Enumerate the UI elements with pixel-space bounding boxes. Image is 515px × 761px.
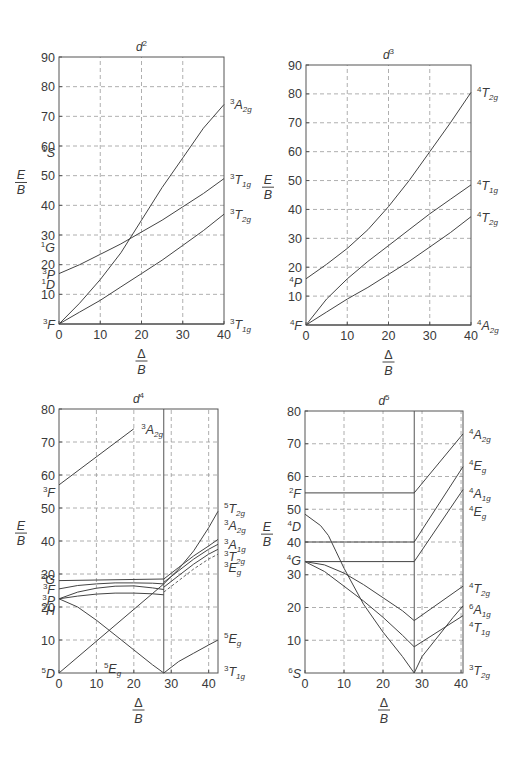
y-tick-label: 40 [41, 199, 55, 213]
term-label-right: 3T1g [230, 172, 252, 189]
x-tick-label: 30 [415, 677, 429, 691]
x-tick-label: 0 [303, 329, 310, 343]
series-line [414, 616, 463, 647]
y-tick-label: 10 [287, 634, 301, 648]
chart-title: d2 [136, 39, 148, 54]
x-axis-label: ΔB [383, 348, 395, 378]
x-tick-label: 10 [337, 677, 351, 691]
x-tick-label: 30 [423, 329, 437, 343]
x-tick-label: 10 [93, 328, 107, 342]
y-tick-label: 60 [41, 469, 55, 483]
y-tick-label: 70 [288, 116, 302, 130]
svg-text:B: B [137, 363, 145, 377]
y-tick-label: 40 [41, 535, 55, 549]
tanabe-sugano-figure: 010203040102030405060708090d2EBΔB1S1G3P1… [0, 0, 515, 761]
term-label-right: 3A2g [230, 97, 252, 114]
x-tick-label: 20 [127, 677, 141, 691]
x-tick-label: 10 [89, 677, 103, 691]
term-label-right: 3T1g [230, 317, 252, 334]
svg-text:Δ: Δ [137, 347, 145, 361]
term-label-right: 4A2g [469, 427, 491, 444]
series-line [414, 490, 463, 562]
y-tick-label: 60 [287, 470, 301, 484]
term-label-left: 3F [43, 485, 56, 500]
svg-text:E: E [17, 168, 26, 182]
term-label-right: 3A2g [224, 518, 246, 535]
svg-text:B: B [384, 364, 392, 378]
y-axis-label: EB [262, 173, 274, 202]
term-label-right: 3T2g [469, 663, 491, 680]
term-label-right: 4T1g [469, 620, 491, 637]
y-tick-label: 30 [288, 232, 302, 246]
term-label-right: 5Eg [224, 631, 242, 648]
svg-text:Δ: Δ [380, 696, 388, 710]
svg-text:B: B [380, 712, 388, 726]
term-label-left: 4G [287, 553, 301, 568]
svg-text:B: B [263, 535, 271, 549]
y-tick-label: 70 [287, 437, 301, 451]
term-label-right: 4T2g [477, 85, 499, 102]
term-label-left: 3H [42, 603, 56, 618]
series-line [414, 467, 463, 542]
y-tick-label: 60 [288, 145, 302, 159]
svg-text:B: B [17, 183, 25, 197]
series-line [59, 105, 224, 325]
y-tick-label: 20 [288, 261, 302, 275]
term-label-left: 6S [288, 666, 301, 681]
svg-text:B: B [134, 712, 142, 726]
x-tick-label: 0 [56, 328, 63, 342]
term-label-right: 4A2g [477, 318, 499, 335]
chart-d4: 0102030401020304050607080d4EBΔB3F3G3F3P3… [15, 391, 246, 726]
chart-title: d4 [133, 391, 145, 406]
series-line [414, 434, 463, 493]
x-tick-label: 20 [382, 329, 396, 343]
term-label-right: 4Eg [469, 458, 487, 475]
svg-text:E: E [264, 173, 273, 187]
x-tick-label: 0 [302, 677, 309, 691]
y-axis-label: EB [261, 520, 273, 549]
y-tick-label: 20 [287, 601, 301, 615]
y-tick-label: 80 [41, 403, 55, 417]
term-label-right: 5T2g [224, 501, 246, 518]
svg-text:B: B [264, 188, 272, 202]
x-axis-label: ΔB [378, 696, 390, 726]
term-label-left: 4P [289, 275, 302, 290]
x-tick-label: 0 [56, 677, 63, 691]
term-label-left: 3F [43, 317, 56, 332]
y-axis-label: EB [15, 519, 27, 548]
y-tick-label: 90 [41, 51, 55, 65]
series-line [305, 514, 414, 673]
term-label-right: 3T2g [230, 207, 252, 224]
y-tick-label: 50 [288, 174, 302, 188]
x-tick-label: 20 [135, 328, 149, 342]
term-label-right: 6A1g [469, 602, 491, 619]
x-axis-label: ΔB [133, 696, 145, 726]
term-label-left: 1G [41, 240, 55, 255]
x-tick-label: 20 [376, 677, 390, 691]
y-tick-label: 40 [288, 203, 302, 217]
y-tick-label: 50 [41, 169, 55, 183]
svg-text:Δ: Δ [134, 696, 142, 710]
svg-text:Δ: Δ [384, 348, 392, 362]
series-line [164, 640, 218, 673]
x-tick-label: 40 [454, 677, 468, 691]
y-tick-label: 30 [287, 568, 301, 582]
term-label-right: 4Eg [469, 504, 487, 521]
svg-text:B: B [17, 534, 25, 548]
term-label-left: 4D [288, 519, 301, 534]
term-label-right: 4T1g [477, 178, 499, 195]
series-line [164, 539, 218, 579]
term-label-left: 1S [42, 145, 55, 160]
y-tick-label: 80 [288, 87, 302, 101]
y-tick-label: 70 [41, 436, 55, 450]
series-line [164, 544, 218, 582]
chart-title: d3 [383, 47, 395, 62]
term-label-right: 4T2g [477, 210, 499, 227]
y-tick-label: 80 [41, 80, 55, 94]
y-tick-label: 10 [41, 634, 55, 648]
term-label-left: 4F [290, 318, 303, 333]
chart-d5: 0102030401020304050607080d5EBΔB2F4D4G6S4… [261, 393, 491, 726]
x-tick-label: 40 [202, 677, 216, 691]
y-tick-label: 50 [41, 502, 55, 516]
chart-d2: 010203040102030405060708090d2EBΔB1S1G3P1… [15, 39, 252, 377]
